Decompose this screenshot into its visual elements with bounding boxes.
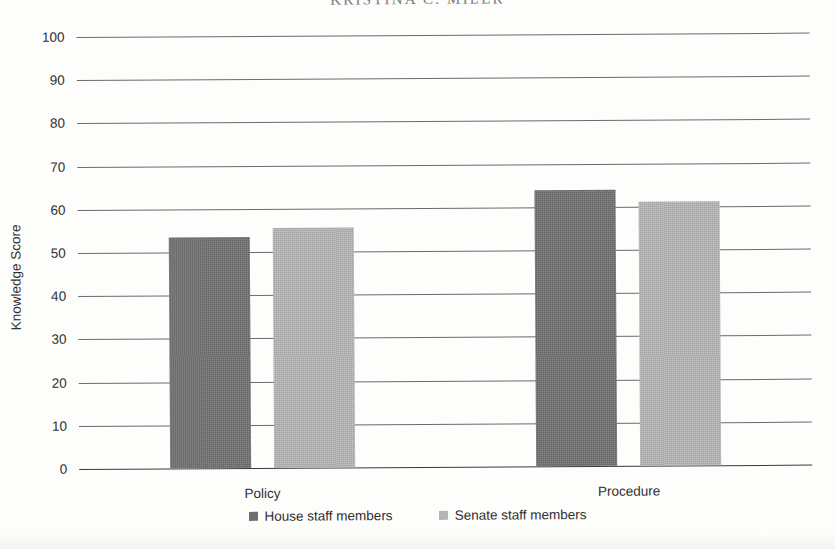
x-axis-category-label: Policy [245,486,281,501]
bar [639,202,722,466]
legend-item[interactable]: House staff members [249,508,393,524]
x-axis-category-label: Procedure [598,484,660,499]
y-axis-tick-label: 40 [51,289,66,304]
y-axis-tick-label: 60 [51,202,66,217]
y-axis-tick-label: 30 [51,332,66,347]
y-axis-tick-label: 90 [50,73,65,88]
bar [535,189,618,466]
bar [169,237,251,469]
legend-label: House staff members [265,508,393,524]
y-axis-tick-label: 50 [51,246,66,261]
gridline [77,33,810,38]
y-axis-tick-label: 10 [52,418,67,433]
legend-label: Senate staff members [455,507,587,523]
y-axis-tick-label: 100 [42,30,65,45]
y-axis-tick-label: 70 [50,159,65,174]
gridline [77,119,810,124]
legend-swatch-icon [439,511,448,520]
y-axis-tick-label: 20 [52,375,67,390]
legend-item[interactable]: Senate staff members [439,507,587,523]
gridline [77,76,810,81]
plot-area: 1009080706050403020100 PolicyProcedure [77,33,813,469]
gridlines [77,33,810,37]
y-axis-tick-label: 0 [60,462,68,477]
bar-chart-figure: Knowledge Score 1009080706050403020100 P… [0,0,835,549]
bar [272,228,354,468]
y-axis-title: Knowledge Score [8,224,24,330]
y-axis-tick-label: 80 [50,116,65,131]
legend-swatch-icon [249,512,258,521]
gridline [77,162,810,167]
